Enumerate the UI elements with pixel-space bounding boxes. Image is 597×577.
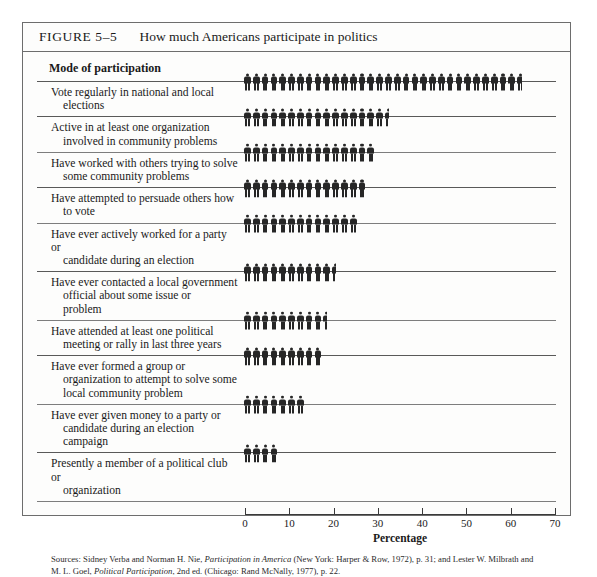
- person-icon: [322, 73, 331, 92]
- person-icon: [393, 73, 402, 92]
- person-icon: [349, 108, 358, 127]
- row-label-line: local community problem: [51, 387, 239, 400]
- person-icon: [287, 347, 296, 366]
- person-icon: [278, 263, 287, 282]
- row-label-line: Have ever contacted a local government: [51, 276, 237, 289]
- person-icon: [269, 214, 278, 233]
- row-label: Have ever actively worked for a party or…: [37, 224, 243, 272]
- person-icon: [322, 179, 331, 198]
- person-icon: [322, 263, 331, 282]
- pictogram-bar: [243, 73, 522, 92]
- person-icon: [331, 143, 340, 162]
- person-icon: [243, 214, 252, 233]
- person-icon: [322, 311, 327, 330]
- person-icon: [296, 73, 305, 92]
- row-label: Have attempted to persuade others howto …: [37, 188, 243, 222]
- person-icon: [340, 73, 349, 92]
- person-icon: [287, 395, 296, 414]
- pictogram-bar: [243, 214, 358, 233]
- pictogram-bar: [243, 311, 327, 330]
- person-icon: [287, 73, 296, 92]
- person-icon: [252, 263, 261, 282]
- person-icon: [296, 179, 305, 198]
- person-icon: [261, 143, 270, 162]
- figure-container: FIGURE 5–5 How much Americans participat…: [22, 22, 571, 516]
- person-icon: [481, 73, 490, 92]
- person-icon: [314, 143, 323, 162]
- axis-tick: [289, 508, 290, 515]
- pictogram-bar: [243, 179, 367, 198]
- sources-note: Sources: Sidney Verba and Norman H. Nie,…: [35, 544, 558, 577]
- pictogram-bar: [243, 444, 278, 463]
- row-label-line: candidate during an election: [51, 422, 239, 435]
- person-icon: [340, 108, 349, 127]
- person-icon: [269, 73, 278, 92]
- person-icon: [261, 179, 270, 198]
- person-icon: [314, 108, 323, 127]
- row-label: Presently a member of a political club o…: [37, 453, 243, 501]
- person-icon: [437, 73, 446, 92]
- person-icon: [269, 311, 278, 330]
- person-icon: [349, 73, 358, 92]
- person-icon: [358, 108, 367, 127]
- row-label-line: to vote: [51, 205, 239, 218]
- person-icon: [261, 395, 270, 414]
- person-icon: [472, 73, 481, 92]
- row-label-line: campaign: [51, 435, 239, 448]
- person-icon: [490, 73, 499, 92]
- person-icon: [358, 73, 367, 92]
- sources-prefix: Sources: Sidney Verba and Norman H. Nie,: [51, 554, 205, 564]
- sources-suffix: , 2nd ed. (Chicago: Rand McNally, 1977),…: [172, 566, 340, 576]
- person-icon: [331, 108, 340, 127]
- person-icon: [331, 179, 340, 198]
- person-icon: [349, 179, 358, 198]
- person-icon: [261, 347, 270, 366]
- person-icon: [252, 73, 261, 92]
- person-icon: [278, 179, 287, 198]
- person-icon: [314, 179, 323, 198]
- person-icon: [296, 263, 305, 282]
- person-icon: [287, 311, 296, 330]
- person-icon: [446, 73, 455, 92]
- person-icon: [269, 444, 278, 463]
- pictogram-bar: [243, 395, 305, 414]
- figure-title: How much Americans participate in politi…: [139, 29, 377, 45]
- row-label-line: elections: [51, 99, 239, 112]
- figure-body: Mode of participation Vote regularly in …: [23, 52, 570, 515]
- person-icon: [305, 108, 314, 127]
- axis-tick-label: 30: [372, 517, 383, 529]
- pictogram-bar: [243, 108, 389, 127]
- person-icon: [269, 347, 278, 366]
- person-icon: [269, 395, 278, 414]
- table-row: Have ever given money to a party orcandi…: [37, 405, 556, 453]
- row-label: Have ever formed a group ororganization …: [37, 356, 243, 404]
- person-icon: [243, 347, 252, 366]
- figure-number: FIGURE 5–5: [39, 29, 117, 45]
- row-label: Vote regularly in national and localelec…: [37, 82, 243, 116]
- person-icon: [296, 214, 305, 233]
- person-icon: [384, 108, 389, 127]
- person-icon: [261, 73, 270, 92]
- person-icon: [278, 108, 287, 127]
- person-icon: [366, 108, 375, 127]
- person-icon: [252, 143, 261, 162]
- person-icon: [296, 347, 305, 366]
- pictogram-bar: [243, 263, 336, 282]
- axis-tick-label: 0: [242, 517, 248, 529]
- axis-tick: [555, 508, 556, 515]
- x-axis: 010203040506070Percentage: [37, 502, 556, 544]
- person-icon: [296, 143, 305, 162]
- pictogram-bar: [243, 347, 323, 366]
- person-icon: [322, 143, 331, 162]
- row-label-line: Have worked with others trying to solve: [51, 157, 238, 170]
- person-icon: [428, 73, 437, 92]
- person-icon: [322, 108, 331, 127]
- axis-tick-label: 10: [284, 517, 295, 529]
- axis-tick: [422, 508, 423, 515]
- person-icon: [252, 347, 261, 366]
- axis-line: [245, 514, 555, 515]
- person-icon: [261, 444, 270, 463]
- person-icon: [252, 311, 261, 330]
- person-icon: [287, 263, 296, 282]
- person-icon: [331, 73, 340, 92]
